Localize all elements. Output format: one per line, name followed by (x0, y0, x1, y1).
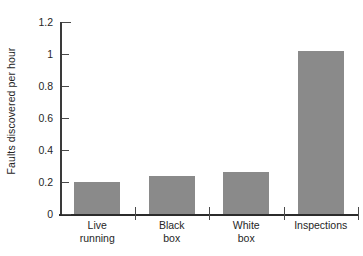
y-axis-title: Faults discovered per hour (0, 0, 22, 222)
x-category-label-line: box (209, 232, 284, 245)
plot-area: 00.20.40.60.811.2 (60, 22, 358, 214)
y-tick-label: 0.6 (38, 112, 53, 124)
x-category-label: Liverunning (60, 219, 135, 244)
bar (74, 182, 120, 214)
y-tick-mark (62, 118, 69, 119)
bar (298, 51, 344, 214)
x-category-label-line: Live (60, 219, 135, 232)
x-category-label-line: White (209, 219, 284, 232)
y-tick-label: 0.4 (38, 144, 53, 156)
bar (223, 172, 269, 214)
y-axis-title-text: Faults discovered per hour (5, 48, 17, 175)
y-tick-label: 0.2 (38, 176, 53, 188)
y-tick-mark (62, 150, 69, 151)
y-tick-mark (62, 214, 71, 215)
y-tick-label: 0 (47, 208, 53, 220)
y-tick-mark (62, 86, 69, 87)
x-tick-mark (358, 207, 359, 220)
y-tick-label: 1.2 (38, 16, 53, 28)
y-tick-label: 1 (47, 48, 53, 60)
bar (149, 176, 195, 214)
x-category-label: Whitebox (209, 219, 284, 244)
y-tick-mark (62, 22, 71, 23)
y-tick-label: 0.8 (38, 80, 53, 92)
x-category-label-line: box (135, 232, 210, 245)
y-tick-mark (62, 54, 69, 55)
y-tick-mark (62, 182, 69, 183)
x-category-label-line: Black (135, 219, 210, 232)
x-category-label: Inspections (284, 219, 359, 232)
x-category-label: Blackbox (135, 219, 210, 244)
bar-chart: Faults discovered per hour 00.20.40.60.8… (0, 0, 363, 256)
x-category-label-line: running (60, 232, 135, 245)
x-category-label-line: Inspections (284, 219, 359, 232)
